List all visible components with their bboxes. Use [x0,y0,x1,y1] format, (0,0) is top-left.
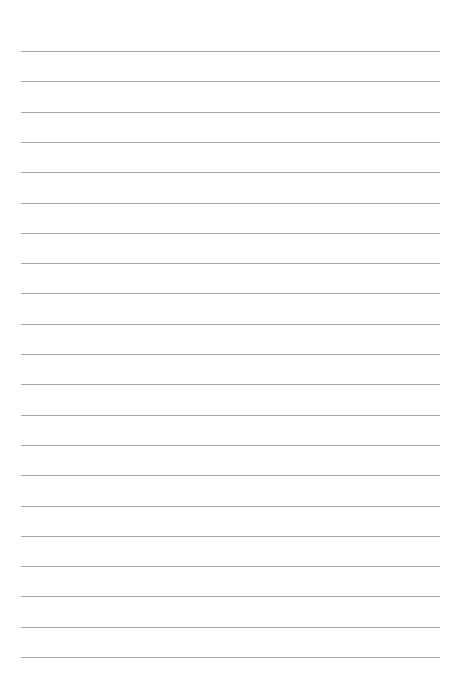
ruled-line [21,384,440,385]
lined-paper-page [0,0,460,687]
ruled-line [21,445,440,446]
ruled-line [21,475,440,476]
ruled-line [21,81,440,82]
ruled-line [21,142,440,143]
ruled-line [21,354,440,355]
ruled-line [21,596,440,597]
ruled-line [21,566,440,567]
ruled-line [21,293,440,294]
ruled-line [21,415,440,416]
ruled-line [21,51,440,52]
ruled-line [21,203,440,204]
ruled-line [21,506,440,507]
ruled-line [21,627,440,628]
ruled-line [21,324,440,325]
ruled-line [21,112,440,113]
ruled-line [21,536,440,537]
ruled-line [21,657,440,658]
ruled-line [21,263,440,264]
ruled-line [21,172,440,173]
ruled-line [21,233,440,234]
